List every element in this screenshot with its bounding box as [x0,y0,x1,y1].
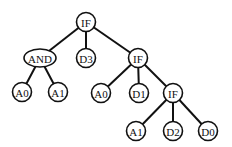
node-label: A0 [94,88,108,100]
node-label: D3 [79,53,93,65]
node-label: IF [133,53,143,65]
tree-node-and: AND [24,49,56,67]
tree-nodes: IFANDD3IFA0A1A0D1IFA1D2D0 [13,13,218,141]
node-label: D2 [166,126,179,138]
tree-node-a1: A1 [127,122,146,141]
node-label: AND [28,53,52,65]
tree-node-if: IF [164,84,183,103]
tree-node-if: IF [129,49,148,68]
tree-node-a1: A1 [49,83,68,102]
tree-node-if: IF [77,13,96,32]
node-label: A1 [51,87,64,99]
tree-node-d0: D0 [199,122,218,141]
node-label: IF [81,17,91,29]
tree-node-a0: A0 [92,84,111,103]
tree-node-d2: D2 [164,122,183,141]
tree-node-a0: A0 [13,83,32,102]
node-label: D0 [201,126,215,138]
tree-node-d1: D1 [130,84,149,103]
node-label: A1 [129,126,142,138]
node-label: D1 [132,88,145,100]
tree-edges [22,22,208,131]
node-label: A0 [15,87,29,99]
tree-node-d3: D3 [77,49,96,68]
node-label: IF [168,88,178,100]
expression-tree: IFANDD3IFA0A1A0D1IFA1D2D0 [0,0,232,147]
